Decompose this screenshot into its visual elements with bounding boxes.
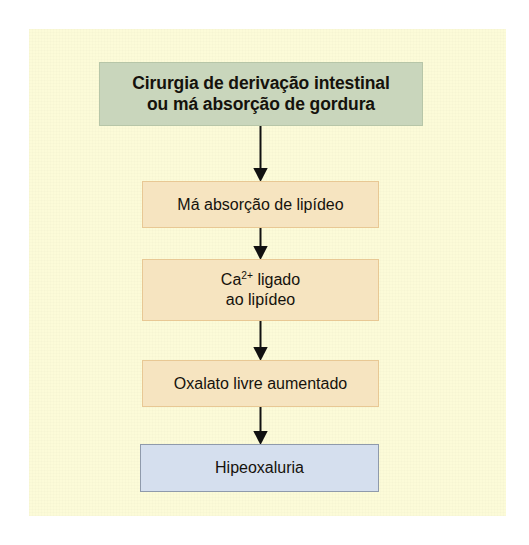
node-label: Oxalato livre aumentado <box>143 374 378 394</box>
node-intestinal-bypass-surgery: Cirurgia de derivação intestinal ou má a… <box>99 62 423 126</box>
node-calcium-bound-to-lipid: Ca2+ ligadoao lipídeo <box>142 259 379 321</box>
node-label-suffix: ligado <box>253 271 300 288</box>
node-label-line2: ao lipídeo <box>226 291 295 308</box>
node-label: Hipeoxaluria <box>141 458 378 478</box>
node-label: Ca2+ ligadoao lipídeo <box>143 270 378 309</box>
node-label: Má absorção de lipídeo <box>143 195 378 215</box>
node-lipid-malabsorption: Má absorção de lipídeo <box>142 181 379 228</box>
flowchart-figure: Cirurgia de derivação intestinal ou má a… <box>0 0 529 545</box>
node-hyperoxaluria: Hipeoxaluria <box>140 444 379 492</box>
node-increased-free-oxalate: Oxalato livre aumentado <box>142 360 379 407</box>
node-label-prefix: Ca <box>221 271 241 288</box>
node-label: Cirurgia de derivação intestinal ou má a… <box>100 73 422 116</box>
superscript-charge: 2+ <box>241 270 253 281</box>
